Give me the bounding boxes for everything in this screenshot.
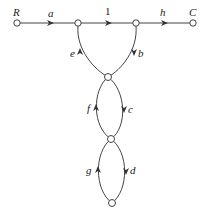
signal-flow-graph: R C a 1 h e b f c g d bbox=[0, 0, 207, 209]
label-h: h bbox=[160, 6, 166, 18]
edge-b bbox=[108, 26, 136, 77]
edge-e bbox=[78, 26, 108, 77]
label-e: e bbox=[70, 47, 75, 59]
label-R: R bbox=[12, 6, 20, 18]
node-C bbox=[190, 20, 196, 26]
edge-c bbox=[108, 77, 123, 139]
node-5 bbox=[109, 200, 116, 207]
label-b: b bbox=[138, 47, 144, 59]
label-d: d bbox=[130, 164, 136, 176]
label-g: g bbox=[86, 164, 92, 176]
node-1 bbox=[75, 20, 81, 26]
label-f: f bbox=[87, 102, 92, 114]
edge-d bbox=[111, 139, 125, 203]
node-4 bbox=[108, 136, 115, 143]
edge-g bbox=[98, 139, 112, 203]
label-a: a bbox=[48, 7, 54, 19]
node-3 bbox=[105, 74, 112, 81]
edge-f bbox=[96, 77, 111, 139]
arrow-b-icon bbox=[131, 49, 137, 56]
arrow-c-icon bbox=[121, 106, 127, 113]
node-R bbox=[14, 20, 20, 26]
label-1: 1 bbox=[105, 5, 111, 17]
arrow-d-icon bbox=[123, 168, 129, 175]
node-2 bbox=[133, 20, 139, 26]
label-C: C bbox=[189, 6, 197, 18]
label-c: c bbox=[128, 103, 133, 115]
